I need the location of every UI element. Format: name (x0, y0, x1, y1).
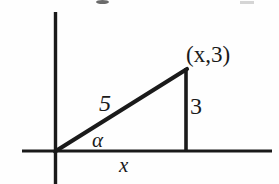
angle-alpha-label: α (92, 130, 103, 151)
hypotenuse-length-label: 5 (99, 91, 111, 115)
trig-figure: (x,3) 5 3 α x (0, 0, 279, 184)
hypotenuse-line (55, 69, 187, 152)
top-edge-artifact-left (96, 0, 109, 4)
figure-canvas (0, 0, 279, 184)
opposite-side-length-label: 3 (190, 94, 202, 118)
vertex-coordinate-label: (x,3) (186, 43, 230, 66)
adjacent-side-length-label: x (119, 155, 128, 176)
top-edge-artifact-right (240, 1, 254, 4)
